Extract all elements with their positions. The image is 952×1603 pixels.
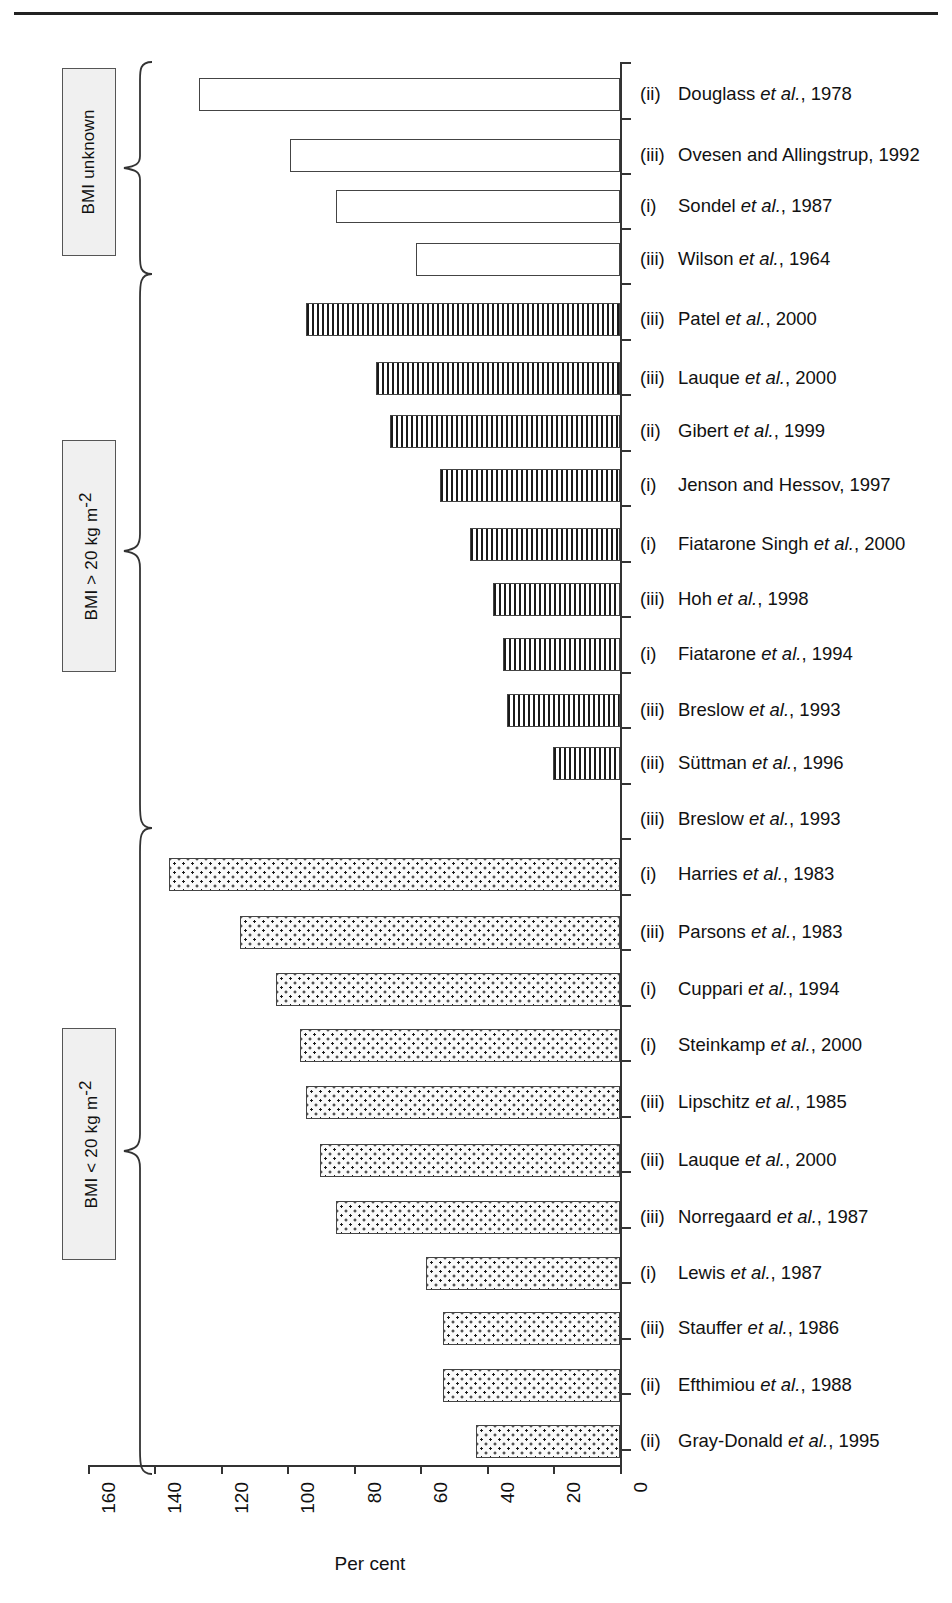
bar bbox=[426, 1257, 620, 1290]
study-author: Breslow bbox=[678, 699, 749, 720]
bar bbox=[493, 583, 620, 616]
bar bbox=[336, 1201, 620, 1234]
x-tick-label: 60 bbox=[430, 1482, 452, 1503]
plot-area: 160 140 120 100 80 60 40 20 0 Per cent (… bbox=[0, 0, 952, 1603]
study-roman-numeral: (i) bbox=[640, 978, 678, 1000]
bar bbox=[440, 469, 620, 502]
study-label: (iii)Wilson et al., 1964 bbox=[640, 248, 830, 270]
study-label: (iii)Ovesen and Allingstrup, 1992 bbox=[640, 144, 920, 166]
study-etal: et al. bbox=[741, 195, 781, 216]
study-year: , 1964 bbox=[779, 248, 830, 269]
y-tick bbox=[622, 450, 631, 452]
study-author: Jenson and Hessov bbox=[678, 474, 839, 495]
study-label: (i)Steinkamp et al., 2000 bbox=[640, 1034, 862, 1056]
y-tick bbox=[622, 118, 631, 120]
study-label: (iii)Breslow et al., 1993 bbox=[640, 808, 841, 830]
study-year: , 2000 bbox=[854, 533, 905, 554]
study-roman-numeral: (i) bbox=[640, 474, 678, 496]
study-year: , 1994 bbox=[801, 643, 852, 664]
study-roman-numeral: (iii) bbox=[640, 699, 678, 721]
study-label: (i)Cuppari et al., 1994 bbox=[640, 978, 839, 1000]
bar bbox=[240, 916, 620, 949]
study-author: Parsons bbox=[678, 921, 751, 942]
study-etal: et al. bbox=[771, 1034, 811, 1055]
y-axis-line bbox=[620, 62, 622, 1466]
study-author: Sondel bbox=[678, 195, 741, 216]
bar bbox=[507, 694, 620, 727]
study-author: Gray-Donald bbox=[678, 1430, 788, 1451]
study-author: Breslow bbox=[678, 808, 749, 829]
x-tick bbox=[154, 1465, 156, 1474]
study-author: Süttman bbox=[678, 752, 752, 773]
study-roman-numeral: (i) bbox=[640, 533, 678, 555]
x-tick bbox=[88, 1465, 90, 1474]
study-author: Harries bbox=[678, 863, 743, 884]
study-year: , 2000 bbox=[765, 308, 816, 329]
bar bbox=[416, 243, 620, 276]
study-etal: et al. bbox=[748, 1317, 788, 1338]
study-roman-numeral: (i) bbox=[640, 1034, 678, 1056]
x-tick bbox=[420, 1465, 422, 1474]
study-etal: et al. bbox=[749, 699, 789, 720]
x-tick bbox=[221, 1465, 223, 1474]
study-year: , 1983 bbox=[791, 921, 842, 942]
study-author: Lewis bbox=[678, 1262, 730, 1283]
bar bbox=[276, 973, 620, 1006]
bar bbox=[306, 1086, 620, 1119]
y-tick bbox=[622, 173, 631, 175]
study-etal: et al. bbox=[730, 1262, 770, 1283]
study-year: , 1992 bbox=[868, 144, 919, 165]
y-tick bbox=[622, 727, 631, 729]
study-author: Stauffer bbox=[678, 1317, 748, 1338]
study-label: (i)Fiatarone et al., 1994 bbox=[640, 643, 853, 665]
study-label: (i)Lewis et al., 1987 bbox=[640, 1262, 822, 1284]
study-etal: et al. bbox=[751, 921, 791, 942]
bar bbox=[199, 78, 620, 111]
study-roman-numeral: (ii) bbox=[640, 83, 678, 105]
study-etal: et al. bbox=[752, 752, 792, 773]
study-roman-numeral: (iii) bbox=[640, 588, 678, 610]
study-roman-numeral: (iii) bbox=[640, 752, 678, 774]
study-label: (iii)Lauque et al., 2000 bbox=[640, 367, 836, 389]
study-roman-numeral: (i) bbox=[640, 195, 678, 217]
y-tick bbox=[622, 561, 631, 563]
study-etal: et al. bbox=[760, 1374, 800, 1395]
study-roman-numeral: (iii) bbox=[640, 1206, 678, 1228]
study-label: (iii)Süttman et al., 1996 bbox=[640, 752, 844, 774]
study-author: Hoh bbox=[678, 588, 717, 609]
study-roman-numeral: (iii) bbox=[640, 1091, 678, 1113]
study-etal: et al. bbox=[749, 808, 789, 829]
y-tick bbox=[622, 1227, 631, 1229]
y-tick bbox=[622, 616, 631, 618]
study-roman-numeral: (iii) bbox=[640, 808, 678, 830]
x-tick-label: 0 bbox=[630, 1482, 652, 1493]
study-year: , 2000 bbox=[785, 367, 836, 388]
y-tick bbox=[622, 228, 631, 230]
study-label: (ii)Gray-Donald et al., 1995 bbox=[640, 1430, 880, 1452]
y-tick bbox=[622, 505, 631, 507]
study-roman-numeral: (iii) bbox=[640, 308, 678, 330]
study-label: (iii)Stauffer et al., 1986 bbox=[640, 1317, 839, 1339]
y-tick bbox=[622, 949, 631, 951]
bar bbox=[503, 638, 620, 671]
y-tick bbox=[622, 1005, 631, 1007]
bar bbox=[390, 415, 620, 448]
study-year: , 1993 bbox=[789, 699, 840, 720]
bar bbox=[470, 528, 620, 561]
bar bbox=[443, 1369, 620, 1402]
study-etal: et al. bbox=[760, 83, 800, 104]
study-etal: et al. bbox=[755, 1091, 795, 1112]
figure-container: BMI unknown BMI > 20 kg m-2 BMI < 20 kg … bbox=[0, 0, 952, 1603]
y-tick bbox=[622, 1393, 631, 1395]
x-tick-label: 80 bbox=[364, 1482, 386, 1503]
study-year: , 1996 bbox=[792, 752, 843, 773]
study-author: Cuppari bbox=[678, 978, 748, 999]
x-tick bbox=[354, 1465, 356, 1474]
study-year: , 1999 bbox=[774, 420, 825, 441]
y-tick bbox=[622, 1282, 631, 1284]
bar bbox=[320, 1144, 620, 1177]
study-year: , 1987 bbox=[781, 195, 832, 216]
x-axis-title: Per cent bbox=[0, 1553, 740, 1575]
x-tick bbox=[487, 1465, 489, 1474]
bar bbox=[290, 139, 620, 172]
